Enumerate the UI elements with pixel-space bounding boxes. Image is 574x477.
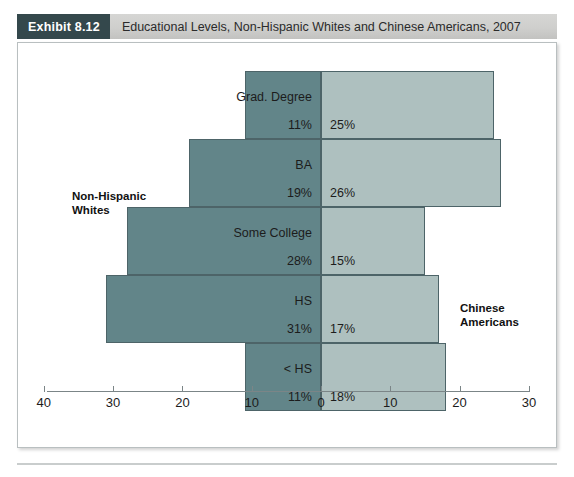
bar-value-left: 19% xyxy=(287,186,312,200)
exhibit-header: Exhibit 8.12 Educational Levels, Non-His… xyxy=(17,14,557,39)
axis-tick-label: 30 xyxy=(522,395,536,410)
category-label: BA xyxy=(295,158,312,172)
bar-left-hs: 31%HS xyxy=(106,275,321,343)
bar-value-right: 18% xyxy=(330,390,355,404)
x-axis-line xyxy=(47,391,529,392)
category-label: Some College xyxy=(233,226,312,240)
axis-tick-label: 20 xyxy=(452,395,466,410)
bar-left-grad-degree: 11%Grad. Degree xyxy=(245,71,321,139)
group-label-non-hispanic-whites: Non-Hispanic Whites xyxy=(72,189,146,217)
bar-right-some-college: 15% xyxy=(321,207,425,275)
axis-tick-label: 0 xyxy=(317,395,324,410)
bar-value-right: 15% xyxy=(330,254,355,268)
chart-plot-area: 25%11%Grad. Degree26%19%BA15%28%Some Col… xyxy=(18,43,558,449)
bar-value-right: 17% xyxy=(330,322,355,336)
chart-frame: 25%11%Grad. Degree26%19%BA15%28%Some Col… xyxy=(17,42,557,448)
category-label: HS xyxy=(295,294,312,308)
bar-right-grad-degree: 25% xyxy=(321,71,494,139)
bar-value-left: 11% xyxy=(288,118,312,132)
axis-tick-label: 10 xyxy=(244,395,258,410)
bar-row: 25%11%Grad. Degree xyxy=(18,71,558,139)
bar-right-hs: 17% xyxy=(321,275,439,343)
axis-tick xyxy=(321,386,322,392)
category-label: < HS xyxy=(284,362,312,376)
bar-right-ba: 26% xyxy=(321,139,501,207)
axis-tick xyxy=(113,386,114,392)
bar-row: 18%11%< HS xyxy=(18,343,558,411)
bar-value-right: 25% xyxy=(330,118,355,132)
group-label-right-line1: Chinese xyxy=(460,302,505,314)
group-label-right-line2: Americans xyxy=(460,316,519,328)
axis-tick-label: 10 xyxy=(383,395,397,410)
bar-left-ba: 19%BA xyxy=(189,139,321,207)
group-label-left-line1: Non-Hispanic xyxy=(72,190,146,202)
bar-value-left: 31% xyxy=(287,322,312,336)
axis-tick xyxy=(390,386,391,392)
exhibit-number-badge: Exhibit 8.12 xyxy=(17,14,110,39)
axis-tick-label: 30 xyxy=(106,395,120,410)
group-label-left-line2: Whites xyxy=(72,204,110,216)
axis-tick xyxy=(44,386,45,392)
bar-row: 15%28%Some College xyxy=(18,207,558,275)
axis-tick xyxy=(182,386,183,392)
group-label-chinese-americans: Chinese Americans xyxy=(460,301,519,329)
axis-tick xyxy=(529,386,530,392)
bar-value-right: 26% xyxy=(330,186,355,200)
axis-tick-label: 20 xyxy=(175,395,189,410)
axis-tick xyxy=(460,386,461,392)
bar-left-some-college: 28%Some College xyxy=(127,207,321,275)
bar-value-left: 11% xyxy=(288,390,312,404)
category-label: Grad. Degree xyxy=(236,90,312,104)
page-divider-rule xyxy=(17,463,557,465)
axis-tick-label: 40 xyxy=(37,395,51,410)
axis-tick xyxy=(252,386,253,392)
exhibit-title: Educational Levels, Non-Hispanic Whites … xyxy=(110,14,557,39)
bar-value-left: 28% xyxy=(287,254,312,268)
